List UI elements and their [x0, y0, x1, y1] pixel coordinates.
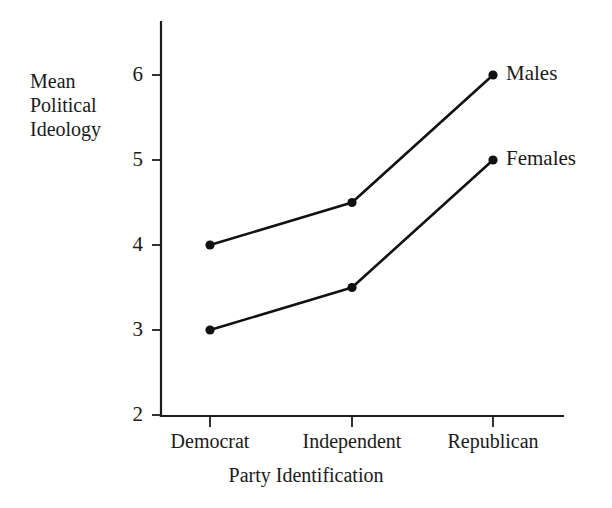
data-point-males-republican — [488, 70, 497, 79]
x-tick-label-independent: Independent — [272, 430, 432, 454]
y-axis-title-line-1: Mean — [30, 70, 76, 94]
series-label-males: Males — [506, 61, 557, 86]
y-axis-title-line-3: Ideology — [30, 118, 101, 142]
data-point-females-republican — [488, 155, 497, 164]
data-point-males-democrat — [205, 240, 214, 249]
y-axis-title-line-2: Political — [30, 94, 97, 118]
series-line-males — [210, 75, 493, 245]
y-tick-label-2: 2 — [113, 402, 143, 427]
y-tick-label-4: 4 — [113, 232, 143, 257]
y-tick-label-6: 6 — [113, 62, 143, 87]
data-point-females-democrat — [205, 325, 214, 334]
data-point-females-independent — [347, 283, 356, 292]
series-line-females — [210, 160, 493, 330]
y-tick-label-5: 5 — [113, 147, 143, 172]
x-axis-title: Party Identification — [0, 464, 612, 488]
x-tick-label-democrat: Democrat — [130, 430, 290, 454]
y-tick-label-3: 3 — [113, 317, 143, 342]
data-point-males-independent — [347, 198, 356, 207]
series-label-females: Females — [506, 146, 576, 171]
x-tick-label-republican: Republican — [413, 430, 573, 454]
chart-figure: 6 5 4 3 2 Mean Political Ideology Democr… — [0, 0, 612, 508]
